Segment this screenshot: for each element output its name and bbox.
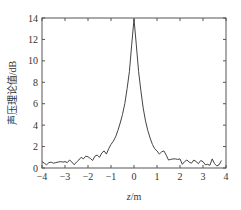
y-axis-ticks: 02468101214 — [28, 13, 226, 174]
y-tick-label: 2 — [33, 141, 38, 152]
y-tick-label: 0 — [33, 163, 38, 174]
plot-border — [42, 18, 226, 168]
x-tick-label: −1 — [106, 171, 117, 182]
x-tick-label: 1 — [155, 171, 160, 182]
x-tick-label: 4 — [224, 171, 229, 182]
y-tick-label: 10 — [28, 55, 38, 66]
y-tick-label: 8 — [33, 77, 38, 88]
y-tick-label: 12 — [28, 34, 38, 45]
x-axis-label-unit: /m — [131, 191, 142, 202]
y-tick-label: 6 — [33, 98, 38, 109]
x-tick-label: −4 — [37, 171, 48, 182]
x-tick-label: −3 — [60, 171, 71, 182]
data-series — [42, 19, 221, 166]
x-tick-label: 2 — [178, 171, 183, 182]
x-axis-label: z/m — [126, 191, 142, 202]
y-axis-label: 声压理论值/dB — [6, 60, 18, 125]
series-line — [42, 19, 221, 166]
y-tick-label: 4 — [33, 120, 38, 131]
x-tick-label: −2 — [83, 171, 94, 182]
line-chart: −4−3−2−101234 02468101214 z/m 声压理论值/dB — [0, 0, 241, 210]
plot-frame — [42, 18, 226, 168]
x-axis-ticks: −4−3−2−101234 — [37, 18, 229, 182]
x-tick-label: 0 — [132, 171, 137, 182]
y-tick-label: 14 — [28, 13, 38, 24]
x-tick-label: 3 — [201, 171, 206, 182]
